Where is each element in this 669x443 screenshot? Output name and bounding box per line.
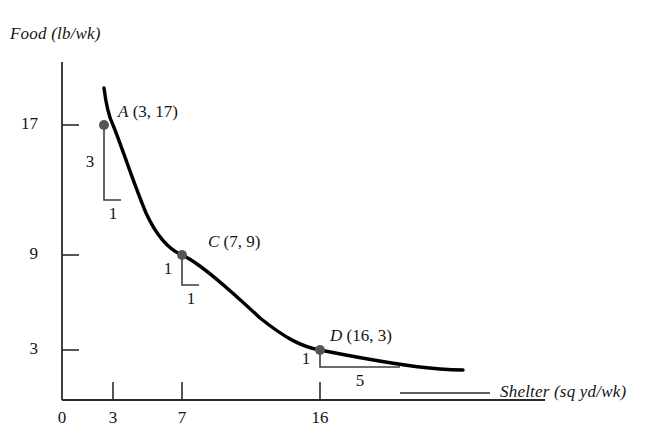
point-label-d-name: D: [330, 326, 342, 345]
chart-canvas: [0, 0, 669, 443]
point-label-c: C (7, 9): [208, 232, 260, 252]
point-label-c-coords: (7, 9): [219, 232, 260, 251]
data-point-a: [99, 120, 109, 130]
x-tick-label-16: 16: [305, 408, 335, 428]
slope-label-c-run: 1: [181, 289, 201, 309]
point-label-a-coords: (3, 17): [128, 102, 178, 121]
point-label-c-name: C: [208, 232, 219, 251]
x-axis-title: Shelter (sq yd/wk): [500, 382, 626, 402]
slope-label-c-rise: 1: [158, 259, 178, 279]
point-label-d-coords: (16, 3): [342, 326, 392, 345]
slope-label-d-rise: 1: [296, 349, 316, 369]
indifference-curve-figure: Food (lb/wk) Shelter (sq yd/wk) 17 9 3 0…: [0, 0, 669, 443]
point-label-a: A (3, 17): [118, 102, 178, 122]
point-label-d: D (16, 3): [330, 326, 392, 346]
x-tick-label-3: 3: [98, 408, 128, 428]
y-tick-label-9: 9: [8, 244, 38, 264]
slope-label-d-run: 5: [350, 371, 370, 391]
point-label-a-name: A: [118, 102, 128, 121]
y-axis-title: Food (lb/wk): [10, 24, 101, 44]
x-tick-label-0: 0: [47, 408, 77, 428]
indifference-curve: [104, 88, 463, 370]
y-tick-label-3: 3: [8, 339, 38, 359]
data-point-d: [315, 345, 325, 355]
data-point-c: [177, 250, 187, 260]
x-tick-label-7: 7: [167, 408, 197, 428]
slope-label-a-run: 1: [103, 204, 123, 224]
y-tick-label-17: 17: [8, 114, 38, 134]
slope-label-a-rise: 3: [80, 152, 100, 172]
